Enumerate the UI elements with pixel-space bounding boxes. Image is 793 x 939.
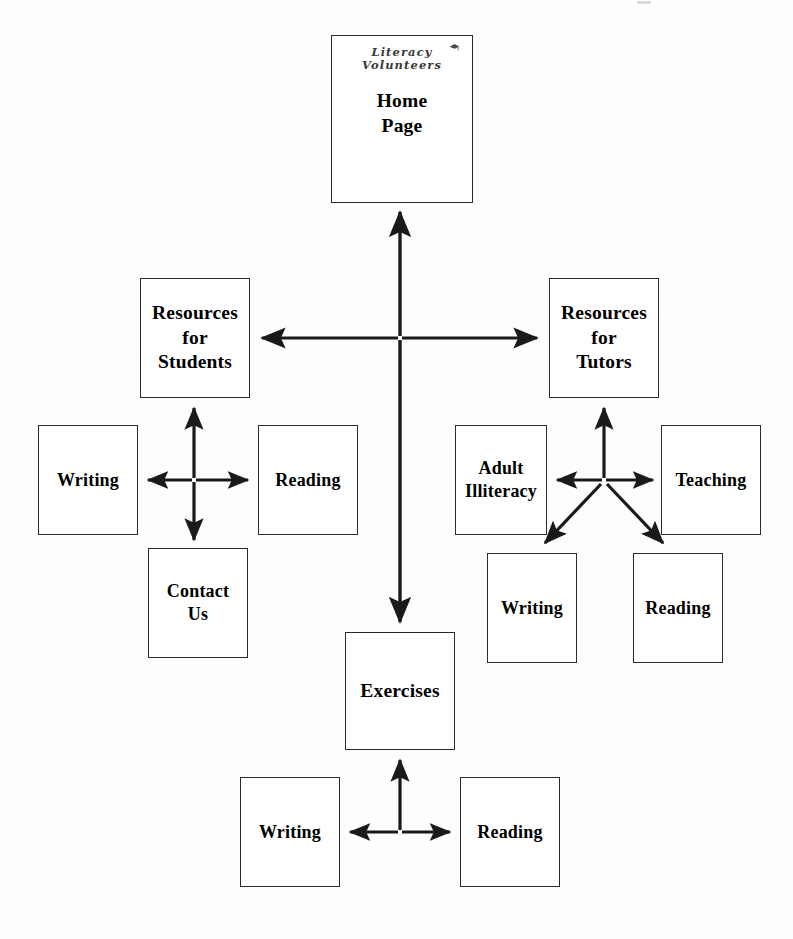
node-adult-illiteracy[interactable]: Adult Illiteracy (455, 425, 547, 535)
node-exercises[interactable]: Exercises (345, 632, 455, 750)
literacy-volunteers-logo: Literacy Volunteers (332, 45, 472, 67)
node-resources-for-students[interactable]: Resources for Students (140, 278, 250, 398)
node-students-writing[interactable]: Writing (38, 425, 138, 535)
node-label: Writing (501, 597, 563, 620)
node-label: Adult Illiteracy (465, 457, 537, 502)
node-teaching[interactable]: Teaching (661, 425, 761, 535)
node-label: Teaching (676, 469, 747, 492)
node-label: Reading (275, 469, 340, 492)
site-map-diagram: Literacy Volunteers Home Page Resources … (0, 0, 793, 939)
node-label: Writing (57, 469, 119, 492)
node-tutors-writing[interactable]: Writing (487, 553, 577, 663)
scan-artifact (637, 1, 651, 4)
edge-tutors-junction-to-tutors-writing (545, 484, 601, 543)
edge-tutors-junction-to-tutors-reading (607, 484, 663, 543)
node-contact-us[interactable]: Contact Us (148, 548, 248, 658)
node-label: Contact Us (167, 580, 229, 625)
node-label: Resources for Tutors (561, 301, 647, 375)
node-label: Reading (645, 597, 710, 620)
node-label: Exercises (360, 679, 439, 704)
node-label: Writing (259, 821, 321, 844)
node-label: Home Page (377, 89, 428, 138)
node-resources-for-tutors[interactable]: Resources for Tutors (549, 278, 659, 398)
node-label: Reading (477, 821, 542, 844)
node-home-page[interactable]: Literacy Volunteers Home Page (331, 35, 473, 203)
graduation-cap-icon (449, 43, 460, 52)
node-exercises-writing[interactable]: Writing (240, 777, 340, 887)
node-tutors-reading[interactable]: Reading (633, 553, 723, 663)
node-students-reading[interactable]: Reading (258, 425, 358, 535)
node-exercises-reading[interactable]: Reading (460, 777, 560, 887)
node-label: Resources for Students (152, 301, 238, 375)
